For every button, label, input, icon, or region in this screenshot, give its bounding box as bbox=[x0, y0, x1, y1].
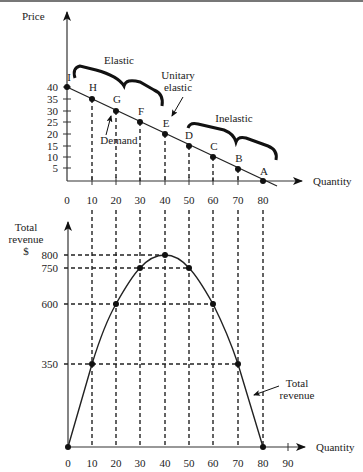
svg-text:D: D bbox=[185, 129, 193, 141]
svg-text:350: 350 bbox=[42, 358, 59, 370]
svg-text:H: H bbox=[89, 81, 97, 93]
unitary-label-1: Unitary bbox=[161, 69, 195, 81]
svg-text:60: 60 bbox=[208, 194, 220, 206]
revenue-axis-label-3: $ bbox=[23, 245, 29, 257]
svg-text:80: 80 bbox=[258, 457, 270, 469]
svg-text:20: 20 bbox=[111, 194, 123, 206]
revenue-axis-label-2: revenue bbox=[9, 233, 44, 245]
elasticity-revenue-diagram: Price Quantity 40 35 30 25 20 15 10 5 0 … bbox=[0, 0, 363, 472]
svg-text:800: 800 bbox=[42, 249, 59, 261]
svg-text:50: 50 bbox=[184, 194, 196, 206]
svg-text:35: 35 bbox=[47, 93, 59, 105]
revenue-axis-label-1: Total bbox=[15, 221, 37, 233]
svg-text:600: 600 bbox=[42, 298, 59, 310]
svg-text:50: 50 bbox=[184, 457, 196, 469]
inelastic-brace bbox=[188, 124, 276, 161]
svg-text:25: 25 bbox=[47, 116, 59, 128]
svg-text:30: 30 bbox=[135, 194, 147, 206]
svg-text:0: 0 bbox=[64, 194, 70, 206]
svg-text:10: 10 bbox=[87, 457, 99, 469]
unitary-label-2: elastic bbox=[164, 81, 192, 93]
svg-text:I: I bbox=[67, 71, 71, 83]
quantity-axis-label-bottom: Quantity bbox=[316, 441, 355, 453]
svg-text:70: 70 bbox=[233, 194, 245, 206]
svg-text:40: 40 bbox=[47, 81, 59, 93]
svg-text:B: B bbox=[235, 152, 242, 164]
svg-text:E: E bbox=[163, 117, 170, 129]
quantity-axis-label-top: Quantity bbox=[313, 175, 352, 187]
svg-text:20: 20 bbox=[111, 457, 123, 469]
svg-text:40: 40 bbox=[160, 457, 172, 469]
revenue-chart: Total revenue $ Quantity 800 750 600 350 bbox=[9, 210, 355, 469]
svg-text:A: A bbox=[260, 165, 268, 177]
svg-text:C: C bbox=[210, 140, 217, 152]
tr-curve-label-2: revenue bbox=[280, 389, 315, 401]
revenue-guides bbox=[64, 255, 238, 364]
svg-text:60: 60 bbox=[208, 457, 220, 469]
svg-text:5: 5 bbox=[53, 162, 59, 174]
tr-curve-label-1: Total bbox=[286, 377, 308, 389]
svg-text:20: 20 bbox=[47, 128, 59, 140]
svg-text:F: F bbox=[138, 105, 144, 117]
price-axis-label: Price bbox=[22, 10, 45, 22]
svg-text:0: 0 bbox=[65, 457, 71, 469]
inelastic-label: Inelastic bbox=[215, 112, 252, 124]
svg-text:90: 90 bbox=[283, 457, 295, 469]
svg-text:G: G bbox=[113, 93, 121, 105]
svg-text:750: 750 bbox=[42, 262, 59, 274]
elastic-label: Elastic bbox=[104, 54, 134, 66]
quantity-guides bbox=[92, 210, 263, 447]
svg-text:30: 30 bbox=[135, 457, 147, 469]
demand-label: Demand bbox=[100, 134, 138, 146]
demand-arrow bbox=[106, 116, 111, 135]
svg-text:70: 70 bbox=[233, 457, 245, 469]
revenue-ticks: 800 750 600 350 bbox=[42, 249, 59, 370]
svg-text:80: 80 bbox=[258, 194, 270, 206]
svg-text:10: 10 bbox=[87, 194, 99, 206]
unitary-arrow bbox=[172, 97, 183, 116]
tr-curve-arrow bbox=[254, 386, 279, 395]
demand-chart: Price Quantity 40 35 30 25 20 15 10 5 0 … bbox=[22, 10, 352, 206]
svg-text:40: 40 bbox=[160, 194, 172, 206]
